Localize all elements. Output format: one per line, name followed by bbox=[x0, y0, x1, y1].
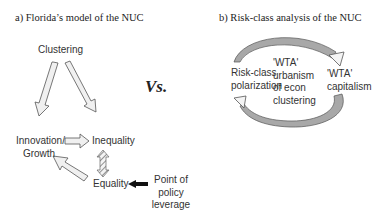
node-wta-urbanism: 'WTA' urbanism of econ clustering bbox=[273, 57, 316, 107]
node-leverage-line1: Point of bbox=[150, 174, 192, 187]
node-center-line1: 'WTA' bbox=[273, 57, 316, 70]
node-wta-capitalism: 'WTA' capitalism bbox=[327, 68, 371, 93]
arrow-clustering-to-innovation-icon bbox=[35, 62, 58, 116]
node-center-line4: clustering bbox=[273, 95, 316, 108]
diagram-canvas: a) Florida’s model of the NUC b) Risk-cl… bbox=[0, 0, 377, 219]
node-capitalism-line1: 'WTA' bbox=[327, 68, 371, 81]
node-innovation-growth: Innovation/ Growth bbox=[16, 135, 62, 160]
panel-b-title: b) Risk-class analysis of the NUC bbox=[219, 12, 362, 23]
versus-label: Vs. bbox=[145, 77, 167, 97]
arrow-inequality-equality-double-icon bbox=[97, 150, 109, 177]
arrow-policy-leverage-icon bbox=[128, 180, 148, 188]
node-center-line2: urbanism bbox=[273, 70, 316, 83]
node-leverage-line2: policy bbox=[150, 187, 192, 200]
node-capitalism-line2: capitalism bbox=[327, 81, 371, 94]
node-inequality: Inequality bbox=[92, 135, 135, 148]
arrow-innovation-to-inequality-icon bbox=[65, 134, 89, 148]
panel-a-title: a) Florida’s model of the NUC bbox=[15, 12, 144, 23]
node-innovation-line1: Innovation/ bbox=[16, 135, 62, 148]
node-center-line3: of econ bbox=[273, 82, 316, 95]
node-equality: Equality bbox=[93, 178, 129, 191]
node-leverage-line3: leverage bbox=[150, 199, 192, 212]
node-clustering: Clustering bbox=[38, 44, 83, 57]
node-policy-leverage: Point of policy leverage bbox=[150, 174, 192, 212]
node-innovation-line2: Growth bbox=[16, 148, 62, 161]
arrow-clustering-to-inequality-icon bbox=[65, 61, 96, 112]
